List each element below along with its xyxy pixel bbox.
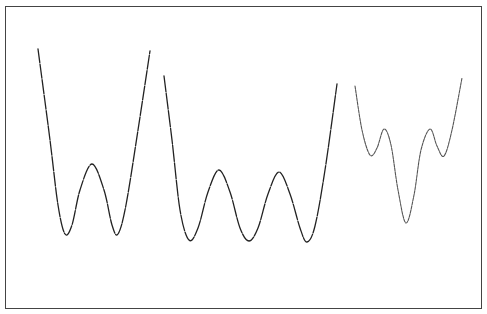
- central-deep-well-curve: [355, 78, 462, 223]
- triple-well-curve: [164, 76, 337, 242]
- double-well-curve: [38, 49, 150, 235]
- potential-curves-plot: [0, 0, 487, 314]
